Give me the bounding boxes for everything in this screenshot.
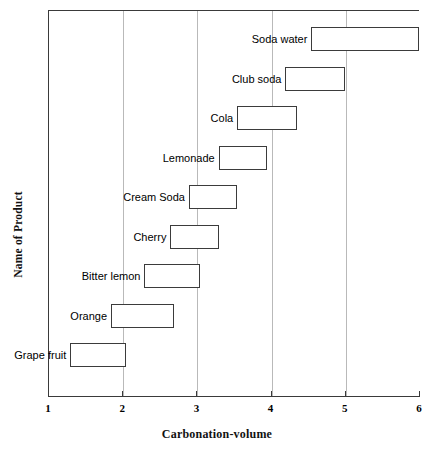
x-axis-tick-label: 4 <box>256 402 286 414</box>
range-bar <box>311 27 419 51</box>
x-axis-tick <box>345 391 346 397</box>
x-axis-title: Carbonation-volume <box>0 427 434 442</box>
range-bar-label: Cream Soda <box>0 185 185 209</box>
range-bar <box>189 185 237 209</box>
range-bar <box>285 67 344 91</box>
range-bar-label: Club soda <box>0 67 281 91</box>
x-axis-tick <box>196 391 197 397</box>
range-bar <box>111 304 174 328</box>
range-bar-label: Grape fruit <box>0 343 66 367</box>
range-bar <box>170 225 218 249</box>
x-axis-tick <box>419 391 420 397</box>
x-axis: 123456 <box>48 396 419 397</box>
range-bar <box>237 106 296 130</box>
range-bar-label: Orange <box>0 304 107 328</box>
x-axis-tick-label: 5 <box>330 402 360 414</box>
range-bar <box>144 264 200 288</box>
carbonation-range-chart: Name of Product 123456 Carbonation-volum… <box>0 0 434 451</box>
range-bar-label: Soda water <box>0 27 307 51</box>
range-bar <box>219 146 267 170</box>
x-axis-tick-label: 1 <box>33 402 63 414</box>
x-axis-tick-label: 2 <box>107 402 137 414</box>
range-bar-label: Cola <box>0 106 233 130</box>
range-bar-label: Lemonade <box>0 146 215 170</box>
range-bar-label: Bitter lemon <box>0 264 140 288</box>
x-axis-tick <box>271 391 272 397</box>
x-axis-tick-label: 6 <box>404 402 434 414</box>
range-bar-label: Cherry <box>0 225 166 249</box>
x-axis-tick-label: 3 <box>181 402 211 414</box>
x-axis-tick <box>122 391 123 397</box>
x-axis-tick <box>48 391 49 397</box>
range-bar <box>70 343 126 367</box>
gridline <box>346 11 347 396</box>
